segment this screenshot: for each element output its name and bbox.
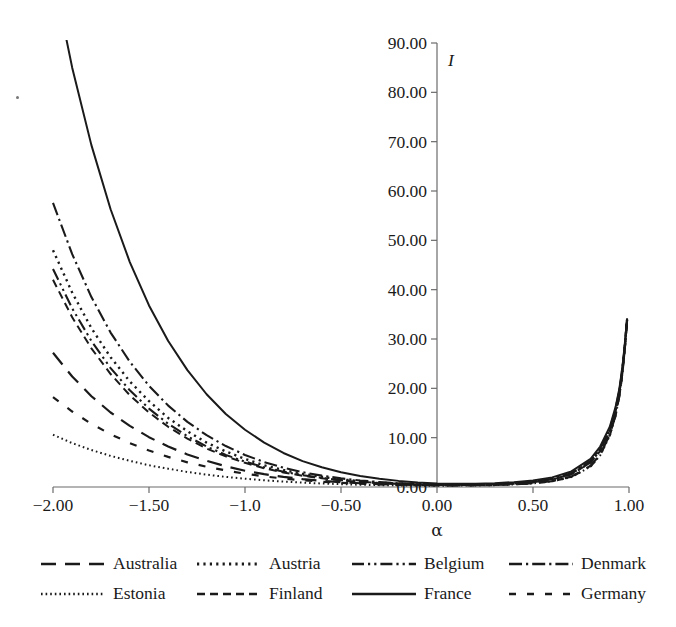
x-tick-label: 0.00 bbox=[422, 495, 453, 515]
legend-item-germany[interactable]: Germany bbox=[508, 579, 646, 609]
series-line-belgium bbox=[53, 269, 627, 485]
x-tick-label: 1.00 bbox=[614, 495, 645, 515]
legend-item-belgium[interactable]: Belgium bbox=[351, 549, 484, 579]
y-tick-label: 40.00 bbox=[388, 280, 428, 300]
legend-line-sample bbox=[196, 587, 262, 601]
legend-line-sample bbox=[508, 587, 574, 601]
legend-item-label: Denmark bbox=[574, 555, 646, 573]
y-tick-label: 30.00 bbox=[388, 329, 428, 349]
legend-item-label: Germany bbox=[574, 585, 646, 603]
legend-line-sample bbox=[351, 557, 417, 571]
legend-item-austria[interactable]: Austria bbox=[196, 549, 321, 579]
legend-item-label: Belgium bbox=[417, 555, 484, 573]
series-line-finland bbox=[53, 280, 627, 485]
legend-item-label: Estonia bbox=[106, 585, 166, 603]
legend-line-sample bbox=[40, 587, 106, 601]
series-line-estonia bbox=[53, 321, 627, 486]
y-tick-label: 50.00 bbox=[388, 230, 428, 250]
series-line-france bbox=[53, 0, 627, 484]
legend-item-label: Finland bbox=[262, 585, 322, 603]
series-group bbox=[53, 0, 627, 486]
legend-item-label: Australia bbox=[106, 555, 177, 573]
y-axis-title: I bbox=[447, 50, 455, 70]
legend-line-sample bbox=[40, 557, 106, 571]
legend-item-label: France bbox=[417, 585, 472, 603]
y-tick-label: 10.00 bbox=[388, 428, 428, 448]
legend-row: EstoniaFinlandFranceGermany bbox=[0, 579, 676, 609]
series-line-denmark bbox=[53, 203, 627, 485]
legend-line-sample bbox=[508, 557, 574, 571]
legend-item-estonia[interactable]: Estonia bbox=[40, 579, 166, 609]
x-tick-label: −0.50 bbox=[321, 495, 362, 515]
plot-area: −2.00−1.50−1.0−0.500.000.501.0090.0080.0… bbox=[0, 0, 676, 549]
x-tick-label: −2.00 bbox=[33, 495, 74, 515]
chart-legend: AustraliaAustriaBelgiumDenmarkEstoniaFin… bbox=[0, 549, 676, 619]
chart-figure: −2.00−1.50−1.0−0.500.000.501.0090.0080.0… bbox=[0, 0, 676, 627]
legend-item-denmark[interactable]: Denmark bbox=[508, 549, 646, 579]
legend-item-australia[interactable]: Australia bbox=[40, 549, 177, 579]
legend-row: AustraliaAustriaBelgiumDenmark bbox=[0, 549, 676, 579]
y-tick-label: 80.00 bbox=[388, 82, 428, 102]
x-axis-title: α bbox=[431, 520, 443, 540]
legend-line-sample bbox=[351, 587, 417, 601]
x-tick-label: 0.50 bbox=[518, 495, 549, 515]
series-line-australia bbox=[53, 320, 627, 485]
y-tick-label: 60.00 bbox=[388, 181, 428, 201]
legend-item-label: Austria bbox=[262, 555, 321, 573]
legend-line-sample bbox=[196, 557, 262, 571]
y-tick-label: 0.00 bbox=[396, 477, 427, 497]
y-tick-label: 90.00 bbox=[388, 33, 428, 53]
series-line-germany bbox=[53, 321, 627, 486]
legend-item-france[interactable]: France bbox=[351, 579, 472, 609]
y-tick-label: 70.00 bbox=[388, 132, 428, 152]
x-tick-label: −1.50 bbox=[129, 495, 170, 515]
x-tick-label: −1.0 bbox=[229, 495, 261, 515]
axes-group: −2.00−1.50−1.0−0.500.000.501.0090.0080.0… bbox=[33, 33, 645, 540]
y-tick-label: 20.00 bbox=[388, 378, 428, 398]
legend-item-finland[interactable]: Finland bbox=[196, 579, 322, 609]
